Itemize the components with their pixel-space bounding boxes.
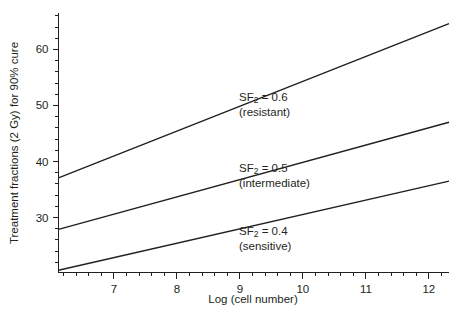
x-tick-label: 12 — [422, 283, 435, 295]
y-tick-label: 40 — [36, 156, 49, 168]
annotation-intermediate-paren: (intermediate) — [239, 177, 310, 189]
x-tick-label: 10 — [296, 283, 309, 295]
chart-figure: 30405060 789101112 Log (cell number) Tre… — [0, 0, 459, 319]
annotation-intermediate-prefix: SF — [239, 162, 254, 174]
annotation-resistant-paren: (resistant) — [239, 106, 290, 118]
annotation-intermediate: SF2 = 0.5 (intermediate) — [239, 162, 310, 189]
annotation-sensitive-suffix: = 0.4 — [258, 225, 288, 237]
x-tick-label: 11 — [360, 283, 372, 295]
series-line — [59, 181, 450, 270]
y-axis-title: Treatment fractions (2 Gy) for 90% cure — [8, 42, 20, 244]
annotation-resistant: SF2 = 0.6 (resistant) — [239, 91, 290, 118]
annotation-sensitive-paren: (sensitive) — [239, 240, 292, 252]
y-tick-label: 30 — [36, 212, 49, 224]
annotation-sensitive: SF2 = 0.4 (sensitive) — [239, 225, 292, 252]
x-axis-ticks — [64, 273, 442, 279]
line-chart: 30405060 789101112 Log (cell number) Tre… — [0, 0, 459, 319]
annotation-sensitive-prefix: SF — [239, 225, 254, 237]
x-axis-title: Log (cell number) — [208, 293, 298, 305]
y-axis-tick-labels: 30405060 — [36, 43, 49, 223]
annotation-resistant-suffix: = 0.6 — [258, 91, 287, 103]
x-tick-label: 7 — [111, 283, 117, 295]
svg-text:SF2 = 0.4: SF2 = 0.4 — [239, 225, 288, 239]
svg-text:SF2 = 0.6: SF2 = 0.6 — [239, 91, 288, 105]
annotation-intermediate-suffix: = 0.5 — [258, 162, 287, 174]
y-tick-label: 50 — [36, 99, 49, 111]
y-axis-ticks — [53, 16, 59, 263]
y-tick-label: 60 — [36, 43, 49, 55]
svg-text:SF2 = 0.5: SF2 = 0.5 — [239, 162, 288, 176]
x-tick-label: 8 — [174, 283, 180, 295]
annotation-resistant-prefix: SF — [239, 91, 254, 103]
